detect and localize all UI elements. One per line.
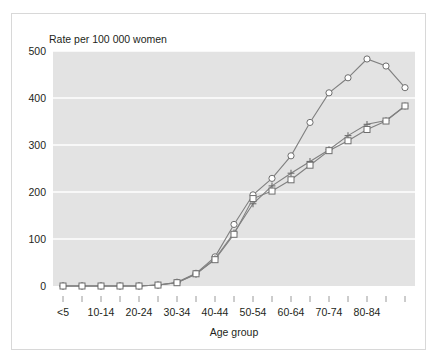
series-marker-square [79, 283, 85, 289]
y-tick-label: 300 [28, 139, 46, 151]
series-marker-square [326, 148, 332, 154]
series-marker-square [212, 257, 218, 263]
y-tick-label: 100 [28, 233, 46, 245]
series-marker-square [117, 283, 123, 289]
series-marker-square [288, 177, 294, 183]
x-tick-label: 20-24 [126, 306, 153, 318]
x-axis-ticks: <510-1420-2430-3440-4450-5460-6470-7480-… [57, 296, 405, 318]
x-tick-label: <5 [57, 306, 69, 318]
series-marker-circle [402, 85, 408, 91]
x-tick-label: 60-64 [278, 306, 305, 318]
series-marker-square [174, 280, 180, 286]
series-marker-circle [307, 119, 313, 125]
series-marker-square [250, 196, 256, 202]
series-marker-circle [383, 63, 389, 69]
y-axis-tick-labels: 0100200300400500 [28, 45, 46, 292]
x-tick-label: 70-74 [316, 306, 343, 318]
series-marker-square [383, 118, 389, 124]
series-marker-circle [269, 175, 275, 181]
x-tick-label: 50-54 [240, 306, 267, 318]
series-marker-square [136, 283, 142, 289]
series-marker-circle [231, 221, 237, 227]
x-axis-title: Age group [210, 326, 259, 338]
series-marker-square [345, 138, 351, 144]
series-marker-square [269, 188, 275, 194]
series-marker-square [193, 271, 199, 277]
y-tick-label: 200 [28, 186, 46, 198]
chart-plot-container: 0100200300400500Rate per 100 000 women<5… [0, 0, 437, 363]
plot-area-background [53, 51, 415, 286]
series-marker-square [231, 231, 237, 237]
chart-figure: 0100200300400500Rate per 100 000 women<5… [0, 0, 437, 363]
series-marker-square [98, 283, 104, 289]
line-chart-svg: 0100200300400500Rate per 100 000 women<5… [0, 0, 437, 363]
series-marker-circle [288, 153, 294, 159]
series-marker-circle [326, 90, 332, 96]
x-tick-label: 80-84 [354, 306, 381, 318]
series-marker-square [155, 282, 161, 288]
y-axis-title: Rate per 100 000 women [49, 33, 167, 45]
series-marker-square [402, 103, 408, 109]
x-tick-label: 10-14 [88, 306, 115, 318]
series-marker-square [307, 162, 313, 168]
series-marker-circle [364, 56, 370, 62]
y-tick-label: 400 [28, 92, 46, 104]
series-marker-square [364, 126, 370, 132]
series-marker-circle [345, 75, 351, 81]
series-marker-square [60, 283, 66, 289]
x-tick-label: 40-44 [202, 306, 229, 318]
y-tick-label: 500 [28, 45, 46, 57]
y-tick-label: 0 [40, 280, 46, 292]
x-tick-label: 30-34 [164, 306, 191, 318]
